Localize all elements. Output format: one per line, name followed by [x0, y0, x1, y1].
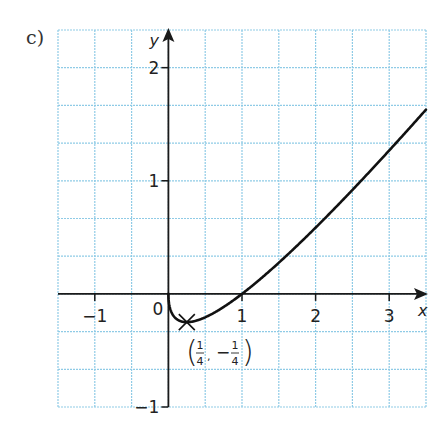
y-tick-label: 1	[149, 171, 160, 191]
y-tick-label: 2	[149, 58, 160, 78]
y-axis-label: y	[148, 31, 159, 50]
y-tick-label: −1	[134, 397, 159, 417]
svg-text:−: −	[216, 342, 230, 362]
function-graph: xy −112321−10 (14,−14)	[0, 0, 446, 437]
x-tick-label: 1	[237, 306, 248, 326]
minimum-point-label: (14,−14)	[186, 334, 254, 369]
x-tick-label: 2	[310, 306, 321, 326]
x-tick-label: −1	[82, 306, 107, 326]
svg-text:4: 4	[197, 355, 204, 368]
x-tick-label: 3	[384, 306, 395, 326]
x-axis-label: x	[417, 301, 428, 320]
svg-text:1: 1	[197, 339, 204, 352]
origin-label: 0	[152, 299, 163, 319]
svg-text:,: ,	[207, 350, 211, 363]
function-curve	[168, 110, 426, 323]
svg-text:4: 4	[232, 355, 239, 368]
svg-text:): )	[242, 334, 254, 369]
svg-text:1: 1	[232, 339, 239, 352]
